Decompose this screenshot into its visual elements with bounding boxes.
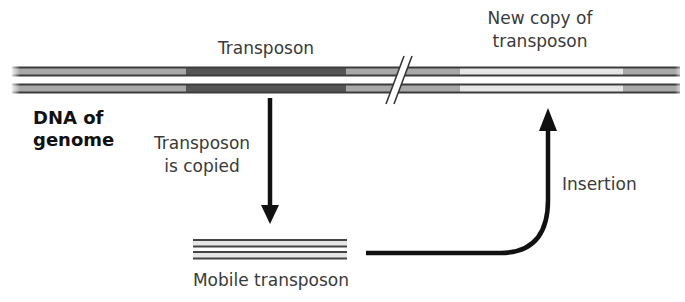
insertion-arrow [366,108,557,253]
flank-right-segment [623,68,680,75]
transposon-copied-label-line1: Transposon [144,133,260,154]
transposon-copied-label-line2: is copied [144,156,260,177]
dna-of-genome-label-line2: genome [33,128,114,151]
transposon-segment [186,68,346,75]
copy-arrow [261,98,279,224]
transposon-label: Transposon [196,38,336,59]
strand-break-marker [386,56,412,104]
insertion-label: Insertion [562,174,637,195]
mobile-transposon-label: Mobile transposon [186,270,356,291]
flank-left-segment [12,68,186,75]
dna-of-genome-label-line1: DNA of [33,106,103,129]
genome-strand-bottom [12,85,680,93]
mobile-transposon-strands [193,240,347,259]
genome-strand-top [12,68,680,76]
new-copy-segment [460,68,623,75]
transposition-diagram: Transposon New copy of transposon DNA of… [0,0,685,302]
new-copy-label-line1: New copy of [460,8,620,29]
new-copy-label-line2: transposon [460,31,620,52]
